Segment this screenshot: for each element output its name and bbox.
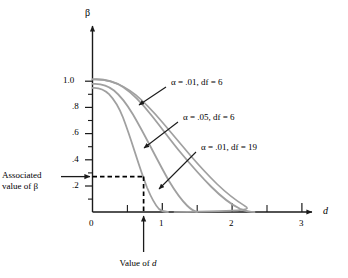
associated-beta-callout-prefix: value of (2, 181, 34, 191)
x-tick-label-3: 3 (299, 219, 304, 228)
annotation-leader-curve-3 (159, 152, 196, 189)
series-label-alpha-01-df-6: α = .01, df = 6 (171, 78, 223, 87)
reference-lines (93, 177, 144, 212)
y-axis-label: β (85, 8, 90, 18)
curve-alpha-01-df-19 (93, 88, 169, 212)
x-tick-label-2: 2 (229, 219, 234, 228)
x-tick-label-1: 1 (159, 219, 164, 228)
y-tick-label-0-6: .6 (72, 128, 79, 137)
series-label-alpha-05-df-6: α = .05, df = 6 (183, 113, 235, 122)
value-of-d-prefix: Value of (120, 258, 153, 268)
beta-symbol: β (34, 181, 39, 191)
d-symbol: d (152, 258, 157, 268)
associated-beta-callout: Associated value of β (2, 170, 62, 193)
y-tick-label-0-2: .2 (72, 181, 79, 190)
beta-power-curve-figure: β d 1.0 .8 .6 .4 .2 0 1 2 3 α = .01, df … (0, 0, 348, 278)
annotation-leader-curve-1 (139, 87, 166, 105)
y-tick-label-1-0: 1.0 (63, 76, 74, 85)
x-tick-label-0: 0 (89, 219, 94, 228)
chart-plot-area (0, 0, 348, 278)
x-axis-label: d (323, 206, 328, 216)
associated-beta-callout-line1: Associated (2, 170, 62, 181)
y-tick-label-0-8: .8 (72, 102, 79, 111)
series-label-alpha-01-df-19: α = .01, df = 19 (201, 143, 257, 152)
y-tick-label-0-4: .4 (72, 155, 79, 164)
associated-beta-callout-line2: value of β (2, 181, 62, 192)
value-of-d-callout: Value of d (96, 258, 180, 269)
y-axis-ticks (85, 81, 93, 199)
